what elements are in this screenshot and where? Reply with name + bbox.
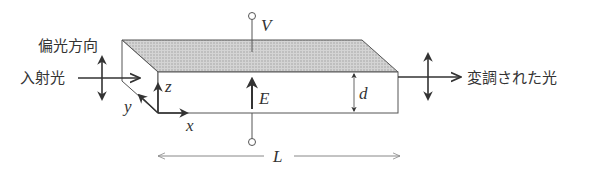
modulated-light-label: 変調された光 xyxy=(467,69,557,87)
incident-light-label: 入射光 xyxy=(20,69,65,87)
axis-x-label: x xyxy=(185,116,194,135)
top-terminal-icon xyxy=(249,13,256,20)
field-label: E xyxy=(258,89,270,108)
electro-optic-modulator-diagram: V E d x y z 偏光方向 入射光 変調された光 L xyxy=(0,0,600,174)
axis-y-label: y xyxy=(122,97,132,116)
axis-z-label: z xyxy=(164,77,172,96)
top-electrode xyxy=(122,40,398,72)
bottom-terminal-icon xyxy=(249,139,256,146)
thickness-label: d xyxy=(359,84,368,103)
length-label: L xyxy=(272,147,282,166)
voltage-label: V xyxy=(261,16,274,35)
polarization-direction-label: 偏光方向 xyxy=(38,37,98,55)
